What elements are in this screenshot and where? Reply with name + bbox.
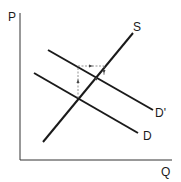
- supply-curve-label: S: [133, 20, 141, 34]
- demand-curve: [34, 73, 138, 133]
- shifted-demand-curve: [48, 50, 153, 110]
- shifted-demand-curve-label: D': [155, 106, 166, 120]
- x-axis-label: Q: [161, 165, 170, 179]
- arrow-down-icon: [103, 70, 106, 74]
- arrow-right-icon: [89, 65, 93, 68]
- y-axis-label: P: [8, 10, 16, 24]
- supply-curve: [43, 33, 133, 142]
- adjustment-path: [78, 66, 104, 98]
- supply-demand-diagram: P Q S D' D: [0, 0, 181, 182]
- arrow-up-icon: [77, 79, 80, 83]
- demand-curve-label: D: [143, 129, 152, 143]
